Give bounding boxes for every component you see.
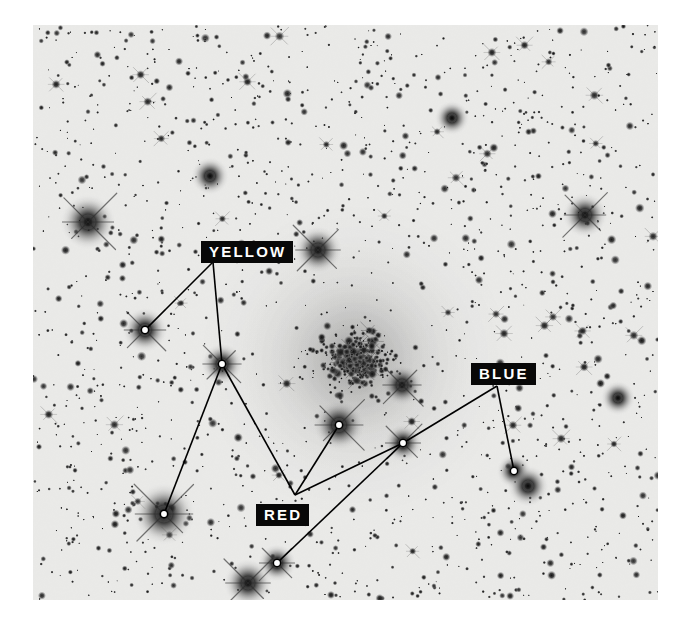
- label-blue: BLUE: [471, 363, 536, 385]
- figure-canvas: YELLOW BLUE RED: [0, 0, 690, 628]
- label-red: RED: [256, 504, 309, 526]
- star-field-image: [33, 25, 658, 600]
- photographic-plate: [33, 25, 658, 600]
- label-yellow: YELLOW: [201, 241, 293, 263]
